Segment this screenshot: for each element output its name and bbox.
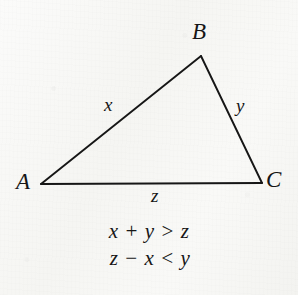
vertex-label-c: C [266, 168, 281, 191]
inequality-line-2: z − x < y [0, 245, 298, 272]
vertex-label-b: B [192, 20, 206, 43]
triangle-side-ac [41, 183, 262, 184]
triangle-side-bc [201, 56, 262, 183]
side-label-x: x [104, 95, 112, 114]
inequality-line-1: x + y > z [0, 218, 298, 245]
side-label-z: z [151, 186, 158, 205]
triangle-side-ab [41, 56, 201, 184]
side-label-y: y [236, 96, 244, 115]
inequalities-block: x + y > z z − x < y [0, 218, 298, 272]
vertex-label-a: A [16, 170, 30, 193]
geometry-figure: A B C x y z x + y > z z − x < y [0, 0, 298, 295]
